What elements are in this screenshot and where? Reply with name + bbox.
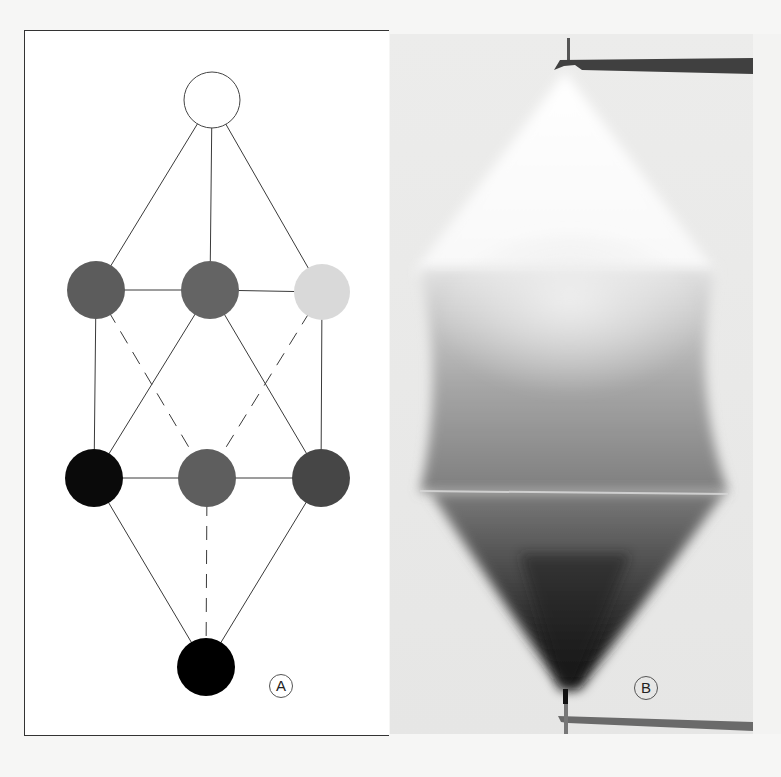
edge-top-mid-left [96, 100, 212, 290]
panel-b-photograph: B [390, 34, 753, 734]
node-mid-right [294, 264, 350, 320]
node-mid-center [181, 261, 239, 319]
node-low-right [292, 449, 350, 507]
right-margin [753, 34, 781, 734]
node-mid-left [67, 261, 125, 319]
edge-low-left-bottom [94, 478, 206, 667]
top-pin [567, 38, 570, 60]
edge-mid-left-low-center [96, 290, 207, 478]
node-top [184, 72, 240, 128]
panel-a-label: A [269, 674, 293, 698]
panel-b-label: B [634, 676, 658, 700]
edge-top-mid-right [212, 100, 322, 292]
panel-a-lattice-diagram: A [24, 30, 389, 736]
bottom-pin [564, 701, 568, 734]
spindle-photo-svg [390, 34, 753, 734]
node-low-left [65, 449, 123, 507]
node-low-center [178, 449, 236, 507]
edge-low-right-bottom [206, 478, 321, 667]
node-bottom [177, 638, 235, 696]
lattice-svg [25, 31, 389, 735]
